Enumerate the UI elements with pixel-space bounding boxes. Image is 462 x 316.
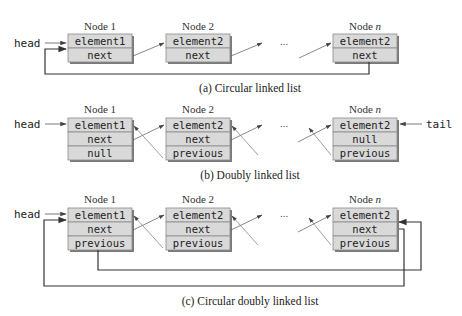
node-title: Node 2 (182, 103, 214, 115)
head-label: head (14, 37, 41, 50)
previous-arrow (232, 216, 258, 245)
cell-text: next (185, 223, 210, 235)
node-title: Node (349, 193, 376, 205)
next-arrow (231, 215, 262, 230)
ellipsis: ... (280, 207, 289, 219)
node-2: Node 2 element2 next (166, 20, 232, 64)
node-title-var: n (376, 103, 382, 115)
cell-text: next (185, 133, 210, 145)
cell-text: next (352, 49, 377, 61)
previous-arrow (134, 216, 163, 248)
cell-text: element1 (75, 119, 126, 131)
next-arrow (133, 125, 164, 140)
cell-text: element1 (75, 35, 126, 47)
cell-text: previous (340, 237, 391, 249)
node-1: Node 1 element1 next previous (68, 193, 134, 252)
previous-arrow (232, 126, 258, 155)
caption: (b) Doubly linked list (200, 169, 300, 182)
linked-list-figure: head Node 1 element1 next Node 2 element… (0, 0, 462, 316)
cell-text: previous (75, 237, 126, 249)
svg-text:Node n: Node n (349, 20, 382, 32)
caption: (c) Circular doubly linked list (182, 295, 319, 308)
svg-text:Node 1: Node 1 (84, 193, 116, 205)
node-n: Node n element2 null previous (333, 103, 399, 162)
head-label: head (14, 208, 41, 221)
node-title: Node (349, 20, 376, 32)
node-title: Node (349, 103, 376, 115)
cell-text: element2 (340, 119, 391, 131)
node-1: Node 1 element1 next null (68, 103, 134, 162)
previous-arrow (309, 128, 331, 155)
cell-text: element2 (340, 209, 391, 221)
node-title: Node 1 (84, 103, 116, 115)
node-n: Node n element2 next previous (333, 193, 399, 252)
next-arrow (299, 43, 331, 58)
cell-text: next (87, 133, 112, 145)
cell-text: next (87, 223, 112, 235)
node-2: Node 2 element2 next previous (166, 193, 232, 252)
ellipsis: ... (280, 35, 289, 47)
node-1: Node 1 element1 next (68, 20, 134, 64)
node-title: Node 1 (84, 193, 116, 205)
svg-text:Node 1: Node 1 (84, 103, 116, 115)
node-title: Node 2 (182, 20, 214, 32)
next-arrow (231, 43, 262, 56)
next-arrow (231, 125, 262, 140)
cell-text: null (87, 147, 112, 159)
svg-text:Node 2: Node 2 (182, 20, 214, 32)
node-title: Node 2 (182, 193, 214, 205)
head-label: head (14, 118, 41, 131)
cell-text: next (87, 49, 112, 61)
diagram-circular-doubly-linked-list: head Node 1 element1 next previous Node … (14, 193, 421, 308)
svg-text:Node n: Node n (349, 193, 382, 205)
previous-arrow (134, 126, 163, 158)
cell-text: previous (340, 147, 391, 159)
next-arrow (133, 215, 164, 230)
ellipsis: ... (280, 117, 289, 129)
cell-text: null (352, 133, 377, 145)
cell-text: next (352, 223, 377, 235)
next-arrow (133, 43, 164, 56)
node-title: Node 1 (84, 20, 116, 32)
cell-text: element2 (173, 209, 224, 221)
svg-text:Node 2: Node 2 (182, 193, 214, 205)
cell-text: element2 (173, 35, 224, 47)
node-title-var: n (376, 193, 382, 205)
cell-text: element1 (75, 209, 126, 221)
cell-text: previous (173, 237, 224, 249)
node-title-var: n (376, 20, 382, 32)
cell-text: next (185, 49, 210, 61)
cell-text: element2 (173, 119, 224, 131)
next-arrow (298, 215, 331, 232)
svg-text:Node 1: Node 1 (84, 20, 116, 32)
caption: (a) Circular linked list (199, 82, 302, 95)
svg-text:Node n: Node n (349, 103, 382, 115)
next-arrow (298, 125, 331, 142)
cell-text: previous (173, 147, 224, 159)
previous-arrow (309, 218, 331, 245)
node-n: Node n element2 next (333, 20, 399, 64)
diagram-circular-linked-list: head Node 1 element1 next Node 2 element… (14, 20, 399, 95)
cell-text: element2 (340, 35, 391, 47)
tail-label: tail (426, 118, 453, 131)
node-2: Node 2 element2 next previous (166, 103, 232, 162)
svg-text:Node 2: Node 2 (182, 103, 214, 115)
diagram-doubly-linked-list: head Node 1 element1 next null Node 2 el… (14, 103, 453, 182)
